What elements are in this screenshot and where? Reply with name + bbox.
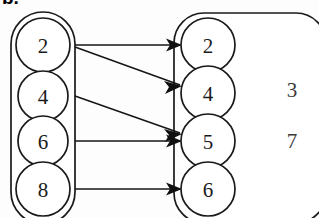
left-node-label-1: 2 (38, 34, 49, 58)
left-node-label-3: 6 (38, 130, 49, 154)
right-node-label-2: 4 (203, 82, 214, 106)
left-node-label-2: 4 (38, 85, 49, 109)
set-mapping-figure: 2 4 6 8 2 4 5 6 3 7 b. (0, 0, 319, 218)
right-loose-label-3: 3 (287, 78, 298, 102)
figure-caption-fragment: b. (2, 0, 19, 9)
right-loose-label-7: 7 (287, 129, 298, 153)
left-node-label-4: 8 (38, 178, 49, 202)
edge-4-to-5 (75, 96, 180, 133)
right-node-label-4: 6 (203, 178, 214, 202)
right-node-label-3: 5 (203, 130, 214, 154)
right-node-label-1: 2 (203, 34, 214, 58)
edge-2-to-4 (75, 47, 180, 85)
